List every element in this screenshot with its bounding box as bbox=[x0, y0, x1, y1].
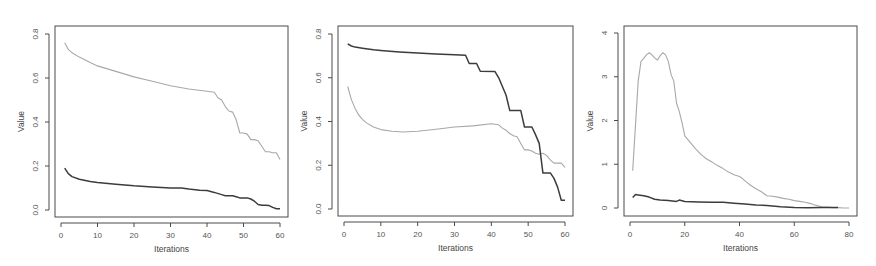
y-tick-label: 0 bbox=[600, 205, 609, 210]
y-axis-title: Value bbox=[585, 110, 595, 131]
x-tick-label: 0 bbox=[628, 230, 633, 239]
x-tick-label: 80 bbox=[845, 230, 854, 239]
y-tick-label: 4 bbox=[600, 30, 609, 35]
plot-frame bbox=[624, 26, 857, 216]
chart-panel-3: 02040608001234IterationsValue bbox=[0, 0, 876, 266]
x-tick-label: 40 bbox=[735, 230, 744, 239]
chart-svg: 02040608001234IterationsValue bbox=[0, 0, 876, 266]
series-line-light bbox=[633, 53, 849, 208]
y-tick-label: 2 bbox=[600, 118, 609, 123]
x-axis-title: Iterations bbox=[723, 243, 758, 253]
x-tick-label: 60 bbox=[790, 230, 799, 239]
x-tick-label: 20 bbox=[680, 230, 689, 239]
y-tick-label: 3 bbox=[600, 74, 609, 79]
y-tick-label: 1 bbox=[600, 161, 609, 166]
series-line-dark bbox=[633, 194, 838, 207]
